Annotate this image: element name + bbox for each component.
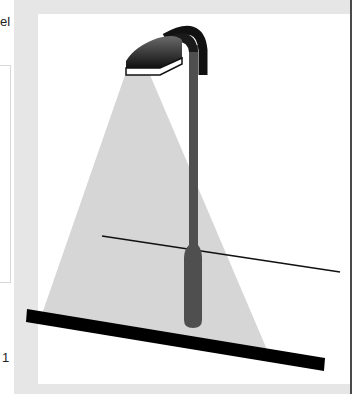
lamp-pole: [189, 45, 198, 265]
lamp-pole-base: [184, 238, 202, 328]
right-rule: [350, 0, 352, 394]
light-cone: [42, 75, 268, 352]
street-lamp-icon: [0, 0, 361, 394]
